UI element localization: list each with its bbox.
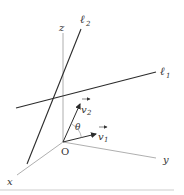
line-l2-label: ℓ 2 [80,13,91,28]
vector-v2-subscript: 2 [86,109,92,117]
vector-v1-label: v 1 [98,127,108,144]
angle-theta-label: θ [75,122,81,132]
y-axis-label: y [162,154,169,165]
z-axis-label: z [58,22,65,33]
x-axis-label: x [7,176,13,187]
line-l1 [16,72,156,108]
x-axis [17,142,63,175]
line-l1-subscript: 1 [166,72,170,80]
vector-v1 [63,134,96,142]
vector-v1-subscript: 1 [104,136,108,144]
line-l1-letter: ℓ [160,65,165,78]
y-axis [63,142,156,158]
vector-v2-label: v 2 [81,99,92,117]
origin-label: O [61,146,69,157]
line-l1-label: ℓ 1 [160,65,170,80]
footer-divider [0,189,174,191]
line-l2-letter: ℓ [80,13,85,26]
line-l2-subscript: 2 [85,20,91,28]
